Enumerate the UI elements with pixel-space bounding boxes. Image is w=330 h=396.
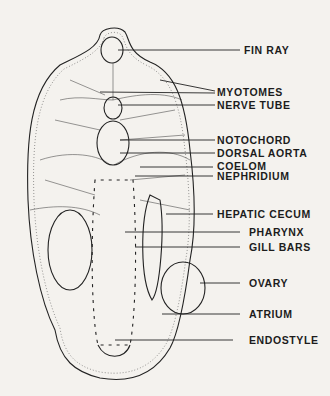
label-nephridium: NEPHRIDIUM [217,170,290,182]
label-dorsal-aorta: DORSAL AORTA [217,147,307,159]
cross-section-diagram: FIN RAY MYOTOMES NERVE TUBE NOTOCHORD DO… [0,0,330,396]
label-gill-bars: GILL BARS [249,241,311,253]
label-myotomes: MYOTOMES [217,86,283,98]
label-ovary: OVARY [249,277,288,289]
hepatic-cecum-shape [143,195,162,300]
label-fin-ray: FIN RAY [244,44,289,56]
label-endostyle: ENDOSTYLE [249,334,319,346]
label-atrium: ATRIUM [249,308,293,320]
gonad-left [48,210,92,290]
nerve-tube-shape [104,97,122,119]
label-hepatic-cecum: HEPATIC CECUM [217,208,311,220]
label-nerve-tube: NERVE TUBE [217,99,291,111]
notochord-shape [97,121,129,165]
label-notochord: NOTOCHORD [217,134,291,146]
myotome-lines [30,63,190,215]
body-outline [28,28,195,379]
pharynx-shape [92,180,135,345]
label-pharynx: PHARYNX [249,226,304,238]
